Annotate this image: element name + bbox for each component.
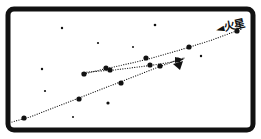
trajectory-dot: [163, 54, 164, 55]
trajectory-dot: [155, 67, 156, 68]
trajectory-dot: [95, 70, 96, 71]
trajectory-dot: [133, 76, 134, 77]
trajectory-dot: [153, 57, 154, 58]
trajectory-dot: [172, 52, 173, 53]
trajectory-dot: [222, 35, 223, 36]
trajectory-dot: [122, 68, 123, 69]
trajectory-dot: [156, 56, 157, 57]
trajectory-dot: [126, 79, 127, 80]
trajectory-dot: [68, 101, 69, 102]
mars-position-dot: [143, 55, 148, 60]
trajectory-dot: [139, 60, 140, 61]
trajectory-dot: [101, 88, 102, 89]
mars-position-dot: [81, 71, 86, 76]
trajectory-dot: [164, 64, 165, 65]
trajectory-dot: [113, 84, 114, 85]
trajectory-dot: [114, 66, 115, 67]
trajectory-dot: [92, 92, 93, 93]
trajectory-dot: [149, 58, 150, 59]
trajectory-dot: [156, 64, 157, 65]
trajectory-dot: [195, 45, 196, 46]
mars-retrograde-figure: ◄火星: [0, 0, 261, 139]
trajectory-dot: [220, 36, 221, 37]
trajectory-dot: [169, 62, 170, 63]
trajectory-dot: [151, 57, 152, 58]
trajectory-dot: [11, 121, 12, 122]
trajectory-dot: [127, 68, 128, 69]
trajectory-dot: [43, 111, 44, 112]
trajectory-dot: [181, 49, 182, 50]
trajectory-dot: [141, 66, 142, 67]
trajectory-dot: [211, 40, 212, 41]
trajectory-dot: [30, 116, 31, 117]
trajectory-dot: [102, 69, 103, 70]
trajectory-dot: [137, 74, 138, 75]
trajectory-dot: [135, 62, 136, 63]
trajectory-dot: [41, 112, 42, 113]
trajectory-dot: [193, 45, 194, 46]
trajectory-dot: [153, 64, 154, 65]
trajectory-dot: [103, 70, 104, 71]
trajectory-dot: [115, 83, 116, 84]
trajectory-dot: [16, 120, 17, 121]
trajectory-dot: [59, 105, 60, 106]
trajectory-dot: [97, 70, 98, 71]
trajectory-dot: [199, 43, 200, 44]
trajectory-dot: [197, 44, 198, 45]
trajectory-dot: [93, 71, 94, 72]
trajectory-dot: [123, 64, 124, 65]
trajectory-dot: [165, 54, 166, 55]
trajectory-dot: [204, 42, 205, 43]
trajectory-dot: [151, 69, 152, 70]
trajectory-dot: [158, 55, 159, 56]
trajectory-dot: [177, 50, 178, 51]
trajectory-dot: [170, 52, 171, 53]
mars-position-dot: [21, 115, 26, 120]
trajectory-dot: [171, 62, 172, 63]
trajectory-dot: [174, 51, 175, 52]
trajectory-dot: [131, 77, 132, 78]
trajectory-dot: [101, 70, 102, 71]
mars-position-dot: [157, 63, 162, 68]
mars-position-dot: [147, 62, 152, 67]
background-star: [44, 90, 46, 92]
trajectory-dot: [144, 72, 145, 73]
trajectory-dot: [50, 108, 51, 109]
trajectory-dot: [116, 66, 117, 67]
trajectory-dot: [148, 70, 149, 71]
trajectory-dot: [183, 48, 184, 49]
trajectory-dot: [124, 80, 125, 81]
trajectory-dot: [66, 102, 67, 103]
trajectory-dot: [163, 63, 164, 64]
background-star: [200, 55, 202, 57]
trajectory-dot: [95, 91, 96, 92]
trajectory-dot: [72, 100, 73, 101]
trajectory-dot: [84, 95, 85, 96]
trajectory-dot: [213, 39, 214, 40]
trajectory-dot: [120, 69, 121, 70]
trajectory-dot: [97, 90, 98, 91]
trajectory-dot: [46, 110, 47, 111]
trajectory-dot: [183, 57, 184, 58]
trajectory-dot: [18, 119, 19, 120]
trajectory-dot: [61, 104, 62, 105]
background-star: [61, 27, 63, 29]
trajectory-dot: [113, 69, 114, 70]
trajectory-dot: [110, 85, 111, 86]
trajectory-dot: [202, 42, 203, 43]
trajectory-dot: [34, 114, 35, 115]
trajectory-dot: [108, 86, 109, 87]
mars-position-dot: [76, 96, 81, 101]
trajectory-dot: [125, 64, 126, 65]
trajectory-dot: [165, 62, 166, 63]
background-star: [106, 101, 109, 104]
trajectory-dot: [48, 109, 49, 110]
trajectory-dot: [81, 96, 82, 97]
trajectory-dot: [137, 61, 138, 62]
trajectory-dot: [153, 68, 154, 69]
trajectory-dot: [227, 34, 228, 35]
trajectory-dot: [37, 114, 38, 115]
trajectory-dot: [28, 117, 29, 118]
trajectory-dot: [146, 65, 147, 66]
trajectory-dot: [132, 62, 133, 63]
